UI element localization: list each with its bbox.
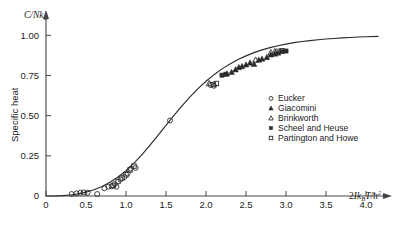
marker-filled-triangle — [259, 56, 265, 61]
x-tick-label: 3.5 — [319, 199, 332, 210]
x-tick-label: 1.0 — [119, 199, 132, 210]
legend-label: Brinkworth — [278, 113, 319, 123]
x-tick-label: 1.5 — [159, 199, 172, 210]
x-axis-title: 2IkBT/ħ2 — [349, 189, 382, 202]
marker-filled-triangle — [269, 106, 273, 110]
specific-heat-chart: C/NkB Specific heat 00.51.01.52.02.53.03… — [0, 0, 416, 228]
x-tick-label: 3.0 — [279, 199, 292, 210]
svg-text:2IkBT/ħ2: 2IkBT/ħ2 — [349, 189, 382, 202]
marker-open-triangle — [269, 116, 273, 120]
legend-label: Giacomini — [278, 103, 316, 113]
y-tick-label: 0.25 — [21, 150, 40, 161]
legend-item-scheel-and-heuse[interactable]: Scheel and Heuse — [269, 123, 348, 133]
legend-label: Scheel and Heuse — [278, 123, 348, 133]
series-eucker — [69, 83, 216, 197]
x-axis-arrow — [383, 193, 392, 199]
legend-label: Partington and Howe — [278, 133, 358, 143]
legend-item-giacomini[interactable]: Giacomini — [269, 103, 317, 113]
y-tick-label: 1.00 — [21, 30, 40, 41]
y-tick-label: 0.50 — [21, 110, 40, 121]
legend-item-eucker[interactable]: Eucker — [269, 93, 305, 103]
x-tick-label: 2.0 — [199, 199, 212, 210]
y-axis-title: C/NkB — [24, 10, 48, 21]
x-axis-ticks: 00.51.01.52.02.53.03.54.0 — [43, 191, 372, 210]
marker-filled-square — [224, 72, 228, 76]
series-partington-and-howe — [111, 49, 284, 188]
data-markers — [69, 49, 288, 197]
y-axis-label: Specific heat — [9, 87, 20, 142]
x-tick-label: 2.5 — [239, 199, 252, 210]
marker-open-square — [269, 136, 272, 139]
theory-curve — [46, 36, 378, 196]
y-tick-label: 0.75 — [21, 70, 40, 81]
chart-legend: EuckerGiacominiBrinkworthScheel and Heus… — [269, 93, 359, 143]
legend-item-partington-and-howe[interactable]: Partington and Howe — [269, 133, 358, 143]
x-tick-label: 0 — [43, 199, 48, 210]
marker-filled-square — [269, 126, 272, 129]
y-tick-label: 0 — [34, 190, 39, 201]
legend-label: Eucker — [278, 93, 305, 103]
marker-filled-square — [220, 73, 224, 77]
marker-open-circle — [269, 96, 273, 100]
figure-canvas: C/NkB Specific heat 00.51.01.52.02.53.03… — [0, 0, 416, 228]
x-tick-label: 0.5 — [79, 199, 92, 210]
legend-item-brinkworth[interactable]: Brinkworth — [269, 113, 319, 123]
